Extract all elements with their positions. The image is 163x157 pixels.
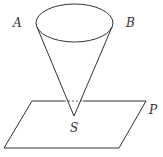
label-a: A — [12, 16, 22, 30]
label-s: S — [70, 121, 78, 135]
cone-base-ellipse — [36, 4, 113, 42]
cone-generatrix-left — [37, 27, 74, 116]
label-b: B — [125, 16, 135, 30]
label-p: P — [148, 103, 158, 117]
cone-generatrix-right — [74, 27, 112, 116]
cone-plane-diagram: A B S P — [0, 0, 163, 157]
cone — [36, 4, 113, 116]
